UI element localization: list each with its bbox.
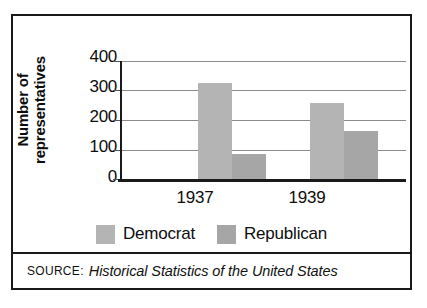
y-tick-100: 100: [65, 138, 117, 155]
y-axis-title-line-1: Number of: [14, 35, 31, 185]
y-tick-200: 200: [65, 108, 117, 125]
source-row: SOURCE: Historical Statistics of the Uni…: [13, 254, 410, 288]
legend-entry-democrat[interactable]: Democrat: [96, 224, 195, 244]
y-tick-300: 300: [65, 78, 117, 95]
bar-1937-democrat[interactable]: [198, 83, 232, 180]
chart-figure: Number of representatives 400 300 200 10…: [11, 14, 412, 290]
y-axis-title-line-2: representatives: [31, 35, 48, 185]
source-title: Historical Statistics of the United Stat…: [89, 263, 338, 279]
y-axis-tick-labels: 400 300 200 100 0: [65, 48, 117, 188]
legend-entry-republican[interactable]: Republican: [217, 224, 327, 244]
legend-label-democrat: Democrat: [123, 224, 195, 244]
legend-swatch-democrat-icon: [96, 225, 115, 244]
bar-1937-republican[interactable]: [232, 154, 266, 180]
x-axis-line: [118, 179, 406, 182]
legend: Democrat Republican: [13, 216, 410, 252]
y-tick-0: 0: [65, 168, 117, 185]
y-tick-400: 400: [65, 48, 117, 65]
legend-swatch-republican-icon: [217, 225, 236, 244]
source-prefix: SOURCE:: [27, 264, 84, 278]
x-category-1939: 1939: [267, 188, 347, 208]
bar-1939-democrat[interactable]: [310, 103, 344, 180]
x-category-1937: 1937: [155, 188, 235, 208]
plot-area: Number of representatives 400 300 200 10…: [13, 16, 410, 252]
bar-1939-republican[interactable]: [344, 131, 378, 180]
legend-label-republican: Republican: [244, 224, 327, 244]
bars-layer: [120, 16, 406, 180]
